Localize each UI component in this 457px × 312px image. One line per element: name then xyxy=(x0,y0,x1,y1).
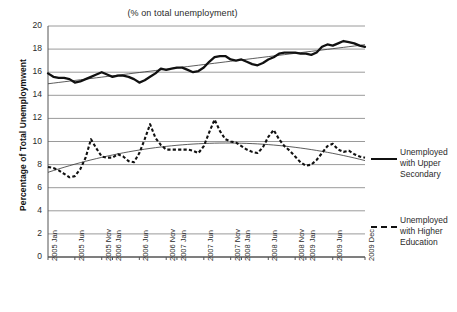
x-tick-label: 2008 Jan xyxy=(244,230,252,261)
legend-label-line-1: Unemployed xyxy=(400,215,457,226)
legend-swatch-higher-education xyxy=(371,226,397,228)
x-tick-label: 2009 Dec xyxy=(368,229,376,261)
legend-item-upper-secondary[interactable]: Unemployed with Upper Secondary xyxy=(400,147,457,180)
y-tick-label: 10 xyxy=(20,137,42,146)
y-tick-label: 18 xyxy=(20,44,42,53)
legend-label-line-1: Unemployed xyxy=(400,147,457,158)
x-tick-label: 2005 Jun xyxy=(78,230,86,261)
y-tick-label: 20 xyxy=(20,21,42,30)
x-tick-label: 2008 Nov xyxy=(298,229,306,261)
x-tick-label: 2007 Jun xyxy=(207,230,215,261)
y-tick-label: 0 xyxy=(20,252,42,261)
x-tick-label: 2009 Jan xyxy=(309,230,317,261)
x-tick-label: 2006 Jun xyxy=(142,230,150,261)
x-tick-label: 2009 Jun xyxy=(336,230,344,261)
legend-label-line-2: with Upper xyxy=(400,158,457,169)
y-tick-label: 6 xyxy=(20,183,42,192)
x-tick-label: 2006 Jan xyxy=(115,230,123,261)
legend-swatch-upper-secondary xyxy=(371,158,397,160)
x-tick-label: 2005 Nov xyxy=(105,229,113,261)
series-line-higher-education xyxy=(48,120,365,178)
y-tick-label: 12 xyxy=(20,113,42,122)
chart-title: (% on total unemployment) xyxy=(0,8,365,18)
x-tick-label: 2007 Nov xyxy=(234,229,242,261)
legend-label-line-2: with Higher xyxy=(400,226,457,237)
legend-label-line-3: Education xyxy=(400,237,457,248)
y-tick-label: 16 xyxy=(20,67,42,76)
x-tick-label: 2006 Nov xyxy=(169,229,177,261)
y-tick-label: 14 xyxy=(20,90,42,99)
chart-container: (% on total unemployment) Percentage of … xyxy=(0,0,457,312)
legend-label-line-3: Secondary xyxy=(400,169,457,180)
x-tick-label: 2007 Jan xyxy=(180,230,188,261)
plot-area xyxy=(0,0,457,312)
x-tick-label: 2005 Jan xyxy=(51,230,59,261)
x-tick-label: 2008 Jun xyxy=(271,230,279,261)
y-tick-label: 2 xyxy=(20,229,42,238)
legend-item-higher-education[interactable]: Unemployed with Higher Education xyxy=(400,215,457,248)
series-line-upper-secondary xyxy=(48,41,365,83)
y-tick-label: 4 xyxy=(20,206,42,215)
y-tick-label: 8 xyxy=(20,160,42,169)
